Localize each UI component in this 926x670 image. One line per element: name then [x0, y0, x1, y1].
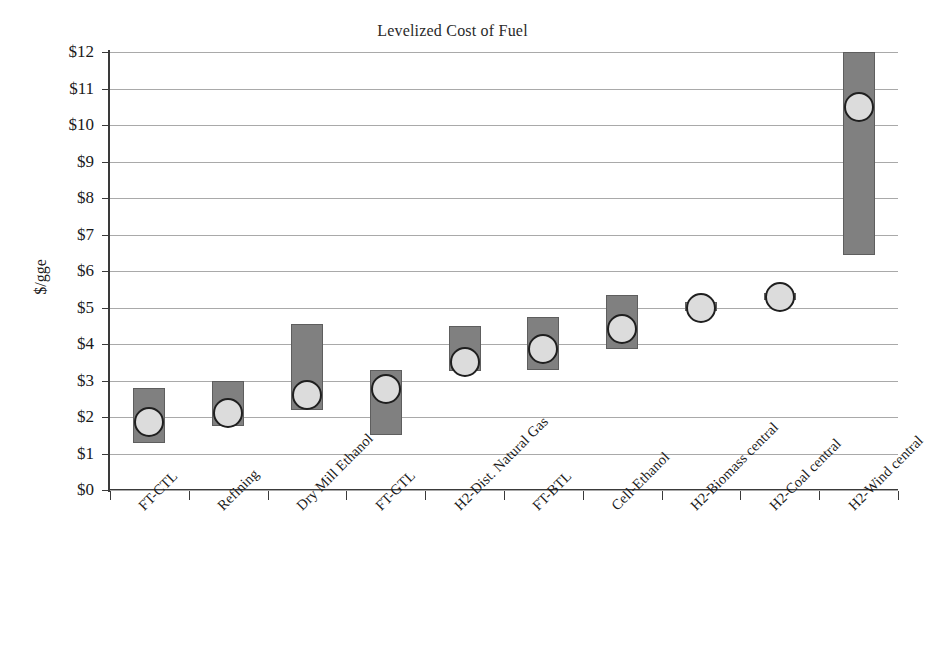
- gridline: [110, 235, 898, 236]
- y-axis-tick-label: $7: [28, 226, 94, 243]
- y-axis-tick-label: $3: [28, 372, 94, 389]
- x-axis-tick: [819, 491, 820, 500]
- x-axis-tick: [189, 491, 190, 500]
- x-axis-tick: [583, 491, 584, 500]
- point-marker: [450, 347, 480, 377]
- gridline: [110, 52, 898, 53]
- y-axis-tick-label: $6: [28, 262, 94, 279]
- gridline: [110, 271, 898, 272]
- y-axis-tick: [102, 490, 110, 491]
- y-axis-tick-label: $10: [28, 116, 94, 133]
- x-axis-tick: [662, 491, 663, 500]
- x-axis-tick: [346, 491, 347, 500]
- point-marker: [686, 293, 716, 323]
- point-marker: [765, 282, 795, 312]
- y-axis-tick: [102, 454, 110, 455]
- y-axis-tick-label: $9: [28, 153, 94, 170]
- plot-area: [110, 52, 898, 490]
- range-bar: [843, 52, 875, 255]
- gridline: [110, 344, 898, 345]
- gridline: [110, 89, 898, 90]
- y-axis-tick-label: $5: [28, 299, 94, 316]
- y-axis-tick: [102, 52, 110, 53]
- y-axis-tick: [102, 271, 110, 272]
- y-axis-tick-label: $12: [28, 43, 94, 60]
- y-axis-tick: [102, 198, 110, 199]
- x-axis-tick: [268, 491, 269, 500]
- point-marker: [292, 380, 322, 410]
- x-axis-tick: [898, 491, 899, 500]
- y-axis-tick-label: $1: [28, 445, 94, 462]
- y-axis-tick: [102, 162, 110, 163]
- gridline: [110, 125, 898, 126]
- y-axis-tick-label: $2: [28, 408, 94, 425]
- y-axis-tick-label: $4: [28, 335, 94, 352]
- point-marker: [371, 374, 401, 404]
- y-axis-tick: [102, 235, 110, 236]
- x-axis-tick: [425, 491, 426, 500]
- y-axis-tick-label: $8: [28, 189, 94, 206]
- y-axis-tick: [102, 381, 110, 382]
- y-axis-tick: [102, 125, 110, 126]
- gridline: [110, 198, 898, 199]
- y-axis-tick-label: $0: [28, 481, 94, 498]
- point-marker: [844, 92, 874, 122]
- y-axis-tick: [102, 344, 110, 345]
- y-axis-tick: [102, 308, 110, 309]
- y-axis-tick-label: $11: [28, 80, 94, 97]
- y-axis-tick: [102, 89, 110, 90]
- chart-title: Levelized Cost of Fuel: [0, 22, 905, 40]
- x-axis-tick: [740, 491, 741, 500]
- gridline: [110, 162, 898, 163]
- x-axis-tick: [504, 491, 505, 500]
- y-axis-tick: [102, 417, 110, 418]
- x-axis-tick: [110, 491, 111, 500]
